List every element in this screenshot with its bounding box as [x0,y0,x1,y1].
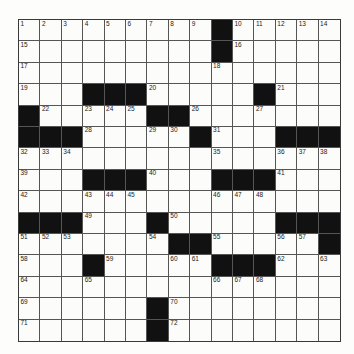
grid-cell[interactable] [297,41,318,62]
grid-cell[interactable]: 52 [40,234,61,255]
grid-cell[interactable]: 41 [276,170,297,191]
grid-cell[interactable]: 21 [276,84,297,105]
grid-cell[interactable] [40,320,61,341]
grid-cell[interactable]: 50 [169,213,190,234]
grid-cell[interactable]: 42 [19,191,40,212]
grid-cell[interactable] [40,41,61,62]
grid-cell[interactable] [319,106,340,127]
grid-cell[interactable] [40,84,61,105]
grid-cell[interactable] [233,298,254,319]
grid-cell[interactable] [212,298,233,319]
grid-cell[interactable] [126,63,147,84]
grid-cell[interactable] [147,255,168,276]
grid-cell[interactable] [147,63,168,84]
grid-cell[interactable] [276,191,297,212]
grid-cell[interactable]: 23 [83,106,104,127]
grid-cell[interactable] [297,320,318,341]
grid-cell[interactable]: 65 [83,277,104,298]
grid-cell[interactable]: 70 [169,298,190,319]
grid-cell[interactable]: 18 [212,63,233,84]
grid-cell[interactable] [105,277,126,298]
grid-cell[interactable] [83,298,104,319]
grid-cell[interactable] [40,255,61,276]
grid-cell[interactable] [105,234,126,255]
grid-cell[interactable]: 39 [19,170,40,191]
grid-cell[interactable] [126,127,147,148]
grid-cell[interactable]: 63 [319,255,340,276]
grid-cell[interactable] [319,170,340,191]
grid-cell[interactable] [254,41,275,62]
grid-cell[interactable] [254,213,275,234]
grid-cell[interactable]: 30 [169,127,190,148]
grid-cell[interactable] [169,84,190,105]
grid-cell[interactable]: 57 [297,234,318,255]
grid-cell[interactable] [169,41,190,62]
grid-cell[interactable] [126,298,147,319]
grid-cell[interactable]: 64 [19,277,40,298]
grid-cell[interactable] [319,277,340,298]
grid-cell[interactable] [126,213,147,234]
grid-cell[interactable] [126,320,147,341]
grid-cell[interactable] [276,298,297,319]
grid-cell[interactable] [212,320,233,341]
grid-cell[interactable]: 8 [169,20,190,41]
grid-cell[interactable]: 34 [62,148,83,169]
grid-cell[interactable]: 69 [19,298,40,319]
grid-cell[interactable] [254,127,275,148]
grid-cell[interactable] [190,277,211,298]
grid-cell[interactable]: 55 [212,234,233,255]
grid-cell[interactable]: 7 [147,20,168,41]
grid-cell[interactable]: 17 [19,63,40,84]
grid-cell[interactable] [319,320,340,341]
grid-cell[interactable] [233,84,254,105]
grid-cell[interactable] [233,127,254,148]
grid-cell[interactable]: 6 [126,20,147,41]
grid-cell[interactable] [233,106,254,127]
grid-cell[interactable]: 16 [233,41,254,62]
grid-cell[interactable]: 15 [19,41,40,62]
grid-cell[interactable] [254,148,275,169]
grid-cell[interactable] [190,298,211,319]
grid-cell[interactable]: 37 [297,148,318,169]
grid-cell[interactable] [105,63,126,84]
grid-cell[interactable] [126,234,147,255]
grid-cell[interactable]: 66 [212,277,233,298]
grid-cell[interactable] [276,41,297,62]
grid-cell[interactable] [147,191,168,212]
grid-cell[interactable] [297,170,318,191]
grid-cell[interactable]: 62 [276,255,297,276]
grid-cell[interactable] [254,63,275,84]
grid-cell[interactable] [319,41,340,62]
grid-cell[interactable]: 46 [212,191,233,212]
grid-cell[interactable] [233,213,254,234]
grid-cell[interactable] [254,234,275,255]
grid-cell[interactable] [169,191,190,212]
grid-cell[interactable] [233,63,254,84]
grid-cell[interactable] [212,213,233,234]
grid-cell[interactable] [83,234,104,255]
grid-cell[interactable] [276,63,297,84]
grid-cell[interactable]: 51 [19,234,40,255]
grid-cell[interactable]: 22 [40,106,61,127]
grid-cell[interactable] [276,320,297,341]
grid-cell[interactable]: 33 [40,148,61,169]
grid-cell[interactable]: 10 [233,20,254,41]
grid-cell[interactable] [147,277,168,298]
grid-cell[interactable] [62,277,83,298]
grid-cell[interactable] [233,320,254,341]
grid-cell[interactable] [105,213,126,234]
grid-cell[interactable] [83,63,104,84]
grid-cell[interactable] [126,41,147,62]
grid-cell[interactable]: 48 [254,191,275,212]
grid-cell[interactable] [62,255,83,276]
grid-cell[interactable] [83,41,104,62]
grid-cell[interactable]: 49 [83,213,104,234]
grid-cell[interactable]: 29 [147,127,168,148]
grid-cell[interactable] [62,41,83,62]
grid-cell[interactable] [276,106,297,127]
grid-cell[interactable]: 3 [62,20,83,41]
grid-cell[interactable] [40,170,61,191]
grid-cell[interactable] [62,170,83,191]
grid-cell[interactable]: 1 [19,20,40,41]
grid-cell[interactable]: 11 [254,20,275,41]
